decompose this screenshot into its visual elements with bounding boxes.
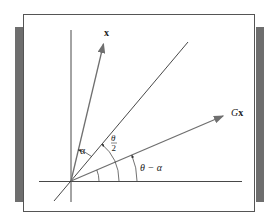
reflection-diagram: x Gx α θ 2 θ − α: [0, 0, 275, 223]
label-theta-half-numerator: θ: [111, 133, 116, 143]
arc-theta-minus-alpha: [132, 155, 137, 181]
mirror-line: [54, 42, 188, 201]
arc-small: [97, 170, 99, 181]
label-theta-half-denominator: 2: [112, 143, 117, 153]
label-gx-x: x: [238, 107, 243, 118]
arc-theta-half: [102, 144, 119, 181]
label-gx: Gx: [231, 107, 243, 118]
label-theta-minus-alpha: θ − α: [140, 162, 163, 173]
label-x: x: [104, 27, 109, 38]
vector-x: [71, 44, 104, 181]
label-gx-g: G: [231, 107, 238, 118]
label-alpha: α: [80, 145, 86, 156]
